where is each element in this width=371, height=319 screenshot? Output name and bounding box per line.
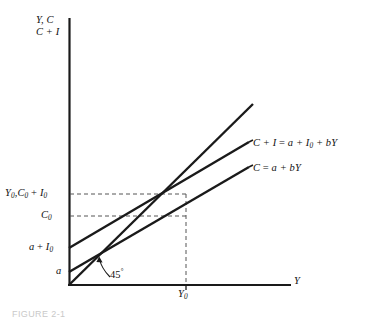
c-equals: =: [260, 162, 271, 173]
c-rhs: a + bY: [272, 162, 301, 173]
keynesian-cross-figure: Y, C C + I Y0,C0 + I0 C0 a + I0 a Y0 Y C…: [0, 0, 371, 319]
x-axis-title: Y: [294, 275, 300, 287]
degree-symbol-icon: °: [121, 267, 124, 275]
y-tick-label-c0: C0: [41, 209, 52, 221]
eq-y-sub: 0: [11, 191, 15, 200]
eq-plus-operator: +: [28, 187, 39, 198]
curve-label-consumption-plus-investment: C + I = a + I0 + bY: [253, 137, 337, 149]
a-symbol: a: [56, 265, 61, 276]
consumption-plus-investment-line: [69, 142, 249, 248]
y-axis-title-line2: C + I: [36, 26, 59, 38]
y-axis-title: Y, C C + I: [36, 14, 59, 38]
eq-i-sub: 0: [43, 191, 47, 200]
y-tick-label-a-plus-i0: a + I0: [29, 241, 53, 253]
i0-sub: 0: [49, 245, 53, 254]
y-axis-title-line1: Y, C: [36, 14, 59, 26]
angle-value: 45: [110, 269, 121, 280]
eq-c-symbol: C: [17, 187, 24, 198]
consumption-line: [69, 167, 249, 272]
c0-sub: 0: [48, 213, 52, 222]
y-tick-label-a: a: [56, 265, 61, 277]
x-tick-label-y0: Y0: [178, 288, 188, 300]
ci-rhs: a + I: [288, 137, 310, 148]
ci-rhs-tail: + bY: [313, 137, 337, 148]
figure-caption: FIGURE 2-1: [12, 309, 66, 319]
a-i0-plus-operator: +: [34, 241, 45, 252]
y0-sub: 0: [184, 292, 188, 301]
ci-equals: =: [276, 137, 287, 148]
y-tick-label-equilibrium: Y0,C0 + I0: [5, 187, 47, 199]
curve-label-consumption: C = a + bY: [253, 162, 301, 174]
ci-rhs-sub: 0: [309, 141, 313, 150]
eq-c-sub: 0: [25, 191, 29, 200]
angle-label-45-degrees: 45°: [110, 268, 124, 280]
ci-lhs: C + I: [253, 137, 276, 148]
